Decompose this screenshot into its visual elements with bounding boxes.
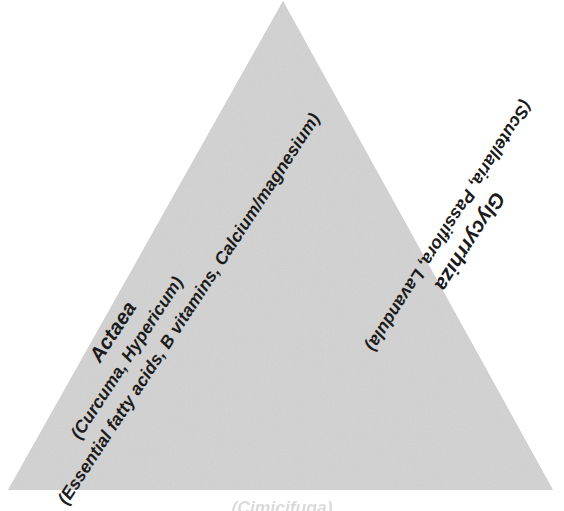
triangle-shape xyxy=(0,0,564,511)
diagram-canvas: Actaea (Curcuma, Hypericum) (Essential f… xyxy=(0,0,564,511)
triangle-fill xyxy=(0,0,564,511)
